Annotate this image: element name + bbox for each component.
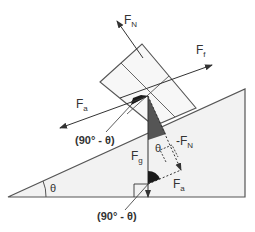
upper-angle-leader	[106, 104, 132, 132]
applied-force-label: Fa	[76, 97, 88, 113]
normal-force-label: FN	[124, 13, 137, 29]
incline-theta-label: θ	[50, 182, 56, 194]
friction-force-label: Ff	[196, 43, 206, 59]
upper-angle-label: (90° - θ)	[75, 134, 115, 146]
incline-force-diagram: FN Ff Fa Fg -FN Fa (90° - θ) (90° - θ) θ…	[0, 0, 255, 232]
lower-angle-label: (90° - θ)	[97, 210, 137, 222]
inclined-plane	[8, 89, 245, 197]
block-theta-label: θ	[155, 142, 161, 154]
applied-force-arrow	[60, 96, 148, 128]
